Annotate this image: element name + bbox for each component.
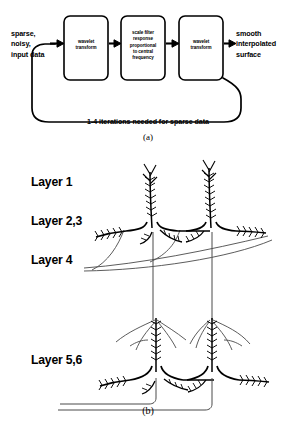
feedback-axon-1 — [60, 378, 156, 404]
iterations-caption: 1-4 iterations needed for sparse data — [0, 118, 296, 126]
arrow-box3-to-output — [224, 40, 236, 47]
upper-cell-axons — [153, 232, 212, 320]
arrow-box1-to-box2 — [109, 40, 121, 47]
soma-lower-2 — [187, 366, 208, 380]
basal-dendrite-lower-2-right — [239, 380, 269, 382]
layer-1-label: Layer 1 — [31, 175, 72, 189]
arrow-box2-to-box3 — [166, 40, 179, 47]
apical-dendrite-upper-2 — [209, 168, 211, 228]
output-surface-label: smooth interpolated surface — [236, 29, 294, 60]
layer-23-label: Layer 2,3 — [31, 214, 82, 228]
panel-b-graphics — [0, 150, 296, 434]
panel-a-caption: (a) — [0, 132, 296, 142]
panel-b-cortical-diagram: Layer 1 Layer 2,3 Layer 4 Layer 5,6 (b) — [0, 150, 296, 434]
panel-b-caption: (b) — [0, 405, 296, 416]
layer-4-label: Layer 4 — [31, 253, 72, 267]
layer-56-label: Layer 5,6 — [31, 353, 82, 367]
box-wavelet-transform-2-label: wavelet transform — [182, 39, 220, 52]
soma-upper-1 — [126, 222, 147, 231]
soma-lower-1 — [130, 366, 152, 380]
panel-a-graphics — [0, 0, 296, 150]
box-wavelet-transform-1-label: wavelet transform — [67, 39, 105, 52]
basal-dendrite-upper-2-right — [236, 231, 266, 233]
panel-a-block-diagram: sparse, noisy, input data smooth interpo… — [0, 0, 296, 150]
lower-cell-apical-tufts — [116, 320, 250, 350]
input-data-label: sparse, noisy, input data — [11, 29, 63, 60]
apical-dendrite-upper-1 — [150, 172, 152, 228]
pyramidal-cell-lower-2 — [187, 318, 269, 392]
pyramidal-cell-upper-2 — [186, 160, 266, 242]
soma-upper-2 — [186, 222, 206, 231]
box-scale-filter-label: scale filter response proportional to ce… — [124, 30, 162, 62]
